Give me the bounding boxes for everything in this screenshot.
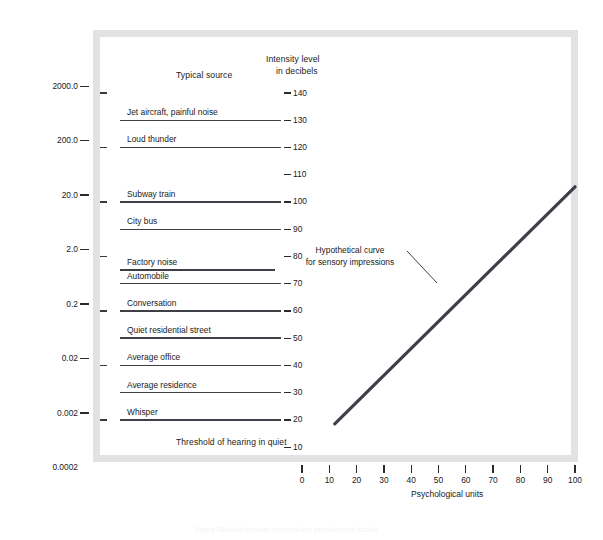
source-rule: [120, 283, 281, 284]
x-axis-tick: [492, 465, 493, 473]
decibel-tick-label: 90: [293, 224, 302, 234]
y-axis-tick-dash: [80, 303, 89, 304]
y-axis-inner-tick: [100, 92, 107, 93]
column-header-intensity-line1: Intensity level: [266, 54, 320, 64]
source-rule: [120, 337, 281, 338]
decibel-tick-label: 100: [293, 196, 307, 206]
decibel-tick-dash: [284, 392, 291, 393]
x-axis-tick: [329, 465, 330, 473]
decibel-tick-label: 140: [293, 88, 307, 98]
y-axis-tick-dash: [80, 194, 89, 195]
y-axis-tick-label: 0.0002: [52, 462, 78, 472]
decibel-tick-label: 120: [293, 142, 307, 152]
decibel-tick-label: 30: [293, 387, 302, 397]
y-axis-tick-label: 0.002: [57, 408, 78, 418]
y-axis-inner-tick: [100, 147, 107, 148]
decibel-tick-dash: [284, 201, 291, 202]
x-axis-tick-label: 100: [563, 475, 587, 485]
x-axis-tick-label: 0: [290, 475, 314, 485]
source-label: Jet aircraft, painful noise: [127, 107, 218, 117]
source-rule: [120, 365, 281, 366]
x-axis-tick: [438, 465, 439, 473]
source-label: Whisper: [127, 407, 158, 417]
x-axis-tick-label: 10: [317, 475, 341, 485]
x-axis-tick: [301, 465, 302, 473]
column-header-intensity-line2: in decibels: [276, 66, 318, 76]
decibel-tick-dash: [284, 229, 291, 230]
decibel-tick-label: 60: [293, 305, 302, 315]
y-axis-tick-dash: [80, 140, 89, 141]
y-axis-tick-dash: [80, 86, 89, 87]
decibel-tick-dash: [284, 92, 291, 93]
decibel-tick-dash: [284, 419, 291, 420]
x-axis-title: Psychological units: [411, 489, 483, 499]
x-axis-tick: [547, 465, 548, 473]
x-axis-tick-label: 40: [399, 475, 423, 485]
y-axis-tick-dash: [80, 358, 89, 359]
y-axis-tick-dash: [80, 249, 89, 250]
decibel-tick-dash: [284, 338, 291, 339]
decibel-tick-label: 10: [293, 442, 302, 452]
decibel-tick-label: 70: [293, 278, 302, 288]
y-axis-inner-tick: [100, 365, 107, 366]
source-rule: [120, 229, 281, 230]
decibel-tick-dash: [284, 283, 291, 284]
source-rule: [120, 147, 281, 148]
source-label: Loud thunder: [127, 134, 176, 144]
source-label: Factory noise: [127, 257, 177, 267]
decibel-tick-label: 20: [293, 414, 302, 424]
x-axis-tick: [520, 465, 521, 473]
source-rule: [120, 419, 281, 420]
threshold-note: Threshold of hearing in quiet: [176, 437, 287, 447]
y-axis-tick-label: 0.02: [62, 353, 78, 363]
curve-annotation-line2: for sensory impressions: [306, 257, 394, 267]
source-label: City bus: [127, 216, 157, 226]
source-rule: [120, 120, 281, 121]
source-label: Automobile: [127, 271, 169, 281]
y-axis-tick-dash: [80, 412, 89, 413]
x-axis-tick: [356, 465, 357, 473]
curve-annotation: Hypothetical curve for sensory impressio…: [285, 245, 415, 268]
x-axis-tick-label: 90: [536, 475, 560, 485]
source-rule: [120, 392, 281, 393]
x-axis-tick: [465, 465, 466, 473]
source-label: Conversation: [127, 298, 176, 308]
x-axis-tick-label: 50: [427, 475, 451, 485]
source-rule: [120, 310, 281, 311]
y-axis-tick-label: 200.0: [57, 135, 78, 145]
source-label: Average residence: [127, 380, 197, 390]
source-label: Subway train: [127, 189, 175, 199]
column-header-source: Typical source: [176, 70, 232, 80]
x-axis-tick: [574, 465, 575, 473]
y-axis-inner-tick: [100, 419, 107, 420]
y-axis-tick-label: 20.0: [62, 190, 78, 200]
figure-caption-ghost: Figure Relation between physical and psy…: [195, 526, 465, 534]
decibel-tick-label: 130: [293, 115, 307, 125]
source-rule: [120, 201, 281, 202]
source-label: Quiet residential street: [127, 325, 211, 335]
y-axis-tick-label: 2.0: [66, 244, 78, 254]
decibel-tick-label: 50: [293, 333, 302, 343]
y-axis-tick-label: 0.2: [66, 299, 78, 309]
y-axis-inner-tick: [100, 201, 107, 202]
plot-frame: Typical source Intensity level in decibe…: [93, 30, 578, 462]
y-axis-tick-label: 2000.0: [52, 81, 78, 91]
x-axis-tick: [383, 465, 384, 473]
x-axis-tick-label: 70: [481, 475, 505, 485]
y-axis-inner-tick: [100, 256, 107, 257]
source-label: Average office: [127, 352, 180, 362]
y-axis-inner-tick: [100, 310, 107, 311]
x-axis-tick-label: 80: [508, 475, 532, 485]
decibel-tick-label: 40: [293, 360, 302, 370]
figure-noise-scale: Physical pressure (dynes/cm2) 2000.0200.…: [0, 0, 603, 540]
x-axis-tick-label: 60: [454, 475, 478, 485]
x-axis-tick-label: 20: [345, 475, 369, 485]
decibel-tick-dash: [284, 174, 291, 175]
x-axis-tick: [411, 465, 412, 473]
decibel-tick-label: 110: [293, 169, 306, 179]
plot-area: Typical source Intensity level in decibe…: [100, 37, 571, 455]
x-axis-tick-label: 30: [372, 475, 396, 485]
decibel-tick-dash: [284, 310, 291, 311]
decibel-tick-dash: [284, 147, 291, 148]
decibel-tick-dash: [284, 120, 291, 121]
